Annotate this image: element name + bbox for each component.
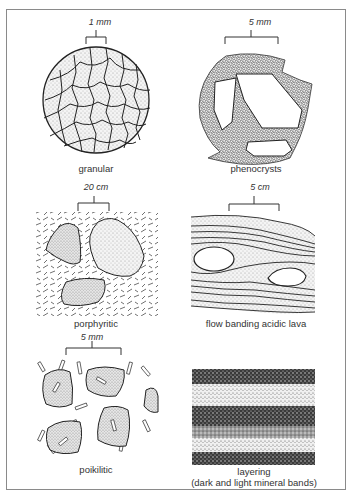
panel-sublabel: (dark and light mineral bands)	[186, 477, 322, 488]
panel-label: layering	[206, 466, 302, 477]
layering-texture-illustration	[0, 0, 351, 499]
